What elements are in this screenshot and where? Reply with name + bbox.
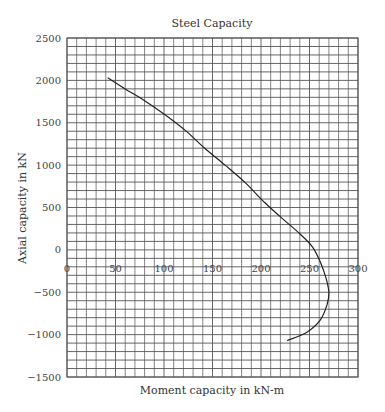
x-tick-label: 250 (300, 263, 319, 274)
y-tick-label: 0 (55, 244, 61, 255)
x-tick-label: 200 (251, 263, 270, 274)
steel-capacity-chart: Steel Capacity 25002000150010005000−500−… (0, 0, 385, 412)
x-tick-label: 100 (154, 263, 173, 274)
y-tick-label: 2000 (36, 75, 61, 86)
chart-title: Steel Capacity (172, 17, 254, 30)
y-tick-label: 500 (42, 202, 61, 213)
y-axis-label: Axial capacity in kN (16, 152, 29, 265)
capacity-curve (108, 78, 329, 341)
y-tick-label: 1500 (36, 117, 61, 128)
y-tick-label: −1500 (27, 372, 61, 383)
x-tick-label: 300 (348, 263, 367, 274)
y-axis-ticks: 25002000150010005000−500−1000−1500 (27, 33, 61, 383)
x-tick-label: 0 (64, 263, 70, 274)
y-tick-label: −1000 (27, 329, 61, 340)
x-tick-label: 50 (109, 263, 122, 274)
x-tick-label: 150 (203, 263, 222, 274)
y-tick-label: −500 (34, 287, 61, 298)
x-axis-label: Moment capacity in kN-m (140, 384, 285, 397)
y-tick-label: 1000 (36, 160, 61, 171)
y-tick-label: 2500 (36, 33, 61, 44)
